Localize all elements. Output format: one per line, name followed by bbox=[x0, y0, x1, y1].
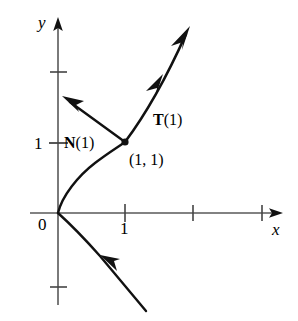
origin-label: 0 bbox=[38, 216, 47, 233]
tangent-vector-label: T(1) bbox=[153, 112, 182, 128]
y-tick-label-1: 1 bbox=[34, 135, 43, 152]
x-tick-label-1: 1 bbox=[120, 220, 129, 237]
figure-canvas: y x 0 1 1 N(1) T(1) (1, 1) bbox=[0, 0, 298, 321]
y-axis-label: y bbox=[38, 14, 46, 31]
curve-lower-branch bbox=[58, 213, 146, 311]
tangent-vector-group bbox=[146, 26, 190, 95]
normal-vector-label: N(1) bbox=[64, 135, 94, 151]
point-label: (1, 1) bbox=[129, 152, 164, 168]
curve-group bbox=[58, 34, 186, 311]
x-axis-label: x bbox=[272, 221, 280, 238]
point-marker bbox=[121, 138, 128, 145]
curve-upper-branch bbox=[58, 142, 125, 213]
